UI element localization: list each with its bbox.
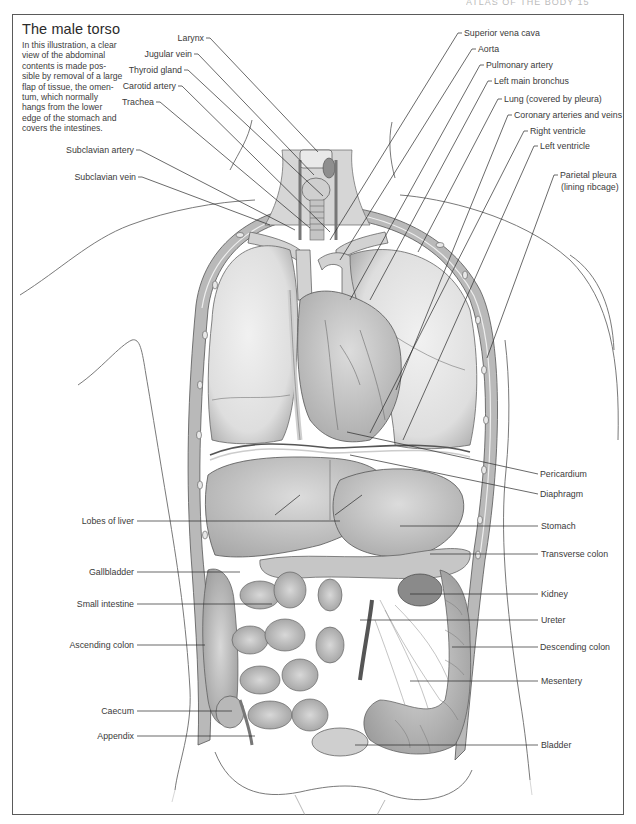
label-kidney: Kidney bbox=[541, 589, 568, 599]
pelvis-outline bbox=[215, 752, 472, 800]
label-transverse-colon: Transverse colon bbox=[541, 549, 608, 559]
label-gallbladder: Gallbladder bbox=[89, 567, 134, 577]
label-jugular-vein: Jugular vein bbox=[145, 49, 192, 59]
small-intestine bbox=[232, 572, 344, 731]
label-right-ventricle: Right ventricle bbox=[530, 126, 586, 136]
label-caecum: Caecum bbox=[101, 706, 134, 716]
label-left-main-bronchus: Left main bronchus bbox=[494, 76, 569, 86]
label-subclavian-vein: Subclavian vein bbox=[74, 172, 136, 182]
label-superior-vena-cava: Superior vena cava bbox=[464, 28, 540, 38]
label-lobes-of-liver: Lobes of liver bbox=[82, 516, 134, 526]
label-thyroid-gland: Thyroid gland bbox=[129, 65, 182, 75]
label-carotid-artery: Carotid artery bbox=[123, 81, 176, 91]
label-small-intestine: Small intestine bbox=[77, 599, 134, 609]
bladder bbox=[312, 728, 368, 756]
right-lung bbox=[208, 246, 297, 444]
label-parietal-pleura: Parietal pleura bbox=[560, 170, 617, 180]
label-parietal-pleura-sub: (lining ribcage) bbox=[561, 182, 619, 192]
label-mesentery: Mesentery bbox=[541, 676, 582, 686]
label-larynx: Larynx bbox=[178, 33, 204, 43]
label-trachea: Trachea bbox=[122, 97, 154, 107]
appendix bbox=[240, 700, 252, 745]
label-aorta: Aorta bbox=[478, 44, 499, 54]
label-bladder: Bladder bbox=[541, 740, 571, 750]
label-left-ventricle: Left ventricle bbox=[540, 141, 590, 151]
label-pulmonary-artery: Pulmonary artery bbox=[486, 60, 553, 70]
label-diaphragm: Diaphragm bbox=[540, 489, 583, 499]
kidney bbox=[398, 574, 442, 606]
neck bbox=[265, 150, 370, 240]
label-ascending-colon: Ascending colon bbox=[69, 640, 134, 650]
label-stomach: Stomach bbox=[541, 521, 576, 531]
label-lung: Lung (covered by pleura) bbox=[504, 94, 602, 104]
label-coronary-arteries-veins: Coronary arteries and veins bbox=[514, 110, 622, 120]
torso-illustration bbox=[0, 0, 636, 824]
label-appendix: Appendix bbox=[97, 731, 134, 741]
label-descending-colon: Descending colon bbox=[540, 642, 610, 652]
label-ureter: Ureter bbox=[541, 615, 565, 625]
stomach bbox=[333, 469, 464, 557]
label-subclavian-artery: Subclavian artery bbox=[66, 145, 134, 155]
ureter bbox=[360, 600, 372, 680]
label-pericardium: Pericardium bbox=[540, 469, 587, 479]
